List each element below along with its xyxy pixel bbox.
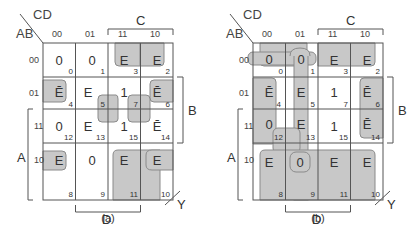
cell-value: 0 <box>253 118 285 131</box>
caption: (a) <box>93 212 123 224</box>
cell-value: E <box>43 154 75 167</box>
cell-index: 7 <box>124 101 138 109</box>
cell-index: 3 <box>124 68 138 76</box>
cell-value: 0 <box>284 156 316 169</box>
cell-index: 4 <box>59 101 73 109</box>
cell-value: 1 <box>108 120 140 133</box>
cell-index: 8 <box>269 191 283 199</box>
cell-value: Ē <box>351 118 383 131</box>
bracket-label-b: B <box>188 104 197 117</box>
row-var-label: AB <box>226 27 243 40</box>
cell-value: 0 <box>285 53 317 66</box>
cell-index: 15 <box>334 134 348 142</box>
cell-value: E <box>141 54 173 67</box>
cell-value: E <box>72 86 104 99</box>
cell-value: E <box>72 120 104 133</box>
cell-index: 13 <box>301 134 315 142</box>
output-label-y: Y <box>387 198 396 211</box>
col-header: 10 <box>150 30 160 39</box>
cell-value: Ē <box>253 86 285 99</box>
cell-value: E <box>141 154 173 167</box>
kmap-a: CD AB 00 01 11 10 00 01 11 10 C B A D Y … <box>0 0 209 231</box>
cell-index: 9 <box>301 191 315 199</box>
col-header: 00 <box>262 30 272 39</box>
cell-index: 14 <box>366 134 380 142</box>
cell-index: 12 <box>269 134 283 142</box>
cell-index: 9 <box>91 191 105 199</box>
cell-value: Ē <box>351 86 383 99</box>
kmap-b: CD AB 00 01 11 10 00 01 11 10 C B A D Y … <box>210 0 418 231</box>
row-header: 01 <box>29 89 39 98</box>
cell-index: 8 <box>59 191 73 199</box>
col-header: 01 <box>295 30 305 39</box>
bracket-label-a: A <box>227 151 236 164</box>
cell-value: Ē <box>141 86 173 99</box>
bracket-label-c: C <box>346 14 355 27</box>
cell-index: 0 <box>269 68 283 76</box>
bracket-label-a: A <box>17 151 26 164</box>
cell-index: 13 <box>91 134 105 142</box>
output-label-y: Y <box>177 198 186 211</box>
cell-index: 6 <box>156 101 170 109</box>
row-header: 00 <box>29 56 39 65</box>
cell-value: Ē <box>43 86 75 99</box>
cell-value: 0 <box>253 53 285 66</box>
cell-value: E <box>318 156 350 169</box>
col-var-label: CD <box>33 8 52 21</box>
cell-value: E <box>318 54 350 67</box>
col-header: 01 <box>85 30 95 39</box>
cell-index: 11 <box>124 191 138 199</box>
cell-value: 0 <box>76 154 108 167</box>
bracket-label-c: C <box>136 14 145 27</box>
caption: (b) <box>303 212 333 224</box>
bracket-label-b: B <box>398 104 407 117</box>
cell-index: 6 <box>366 101 380 109</box>
row-header: 00 <box>239 56 249 65</box>
cell-value: E <box>253 156 285 169</box>
cell-index: 1 <box>91 68 105 76</box>
cell-value: 1 <box>108 86 140 99</box>
cell-value: 0 <box>43 54 75 67</box>
col-header: 11 <box>328 30 337 39</box>
cell-value: Ē <box>141 120 173 133</box>
cell-value: E <box>108 154 140 167</box>
cell-index: 10 <box>156 191 170 199</box>
cell-value: 0 <box>43 120 75 133</box>
cell-value: 1 <box>318 86 350 99</box>
cell-value: 1 <box>318 120 350 133</box>
row-header: 01 <box>239 89 249 98</box>
cell-value: E <box>351 156 383 169</box>
cell-index: 0 <box>59 68 73 76</box>
cell-index: 2 <box>156 68 170 76</box>
cell-index: 5 <box>91 101 105 109</box>
col-header: 00 <box>52 30 62 39</box>
cell-value: E <box>108 54 140 67</box>
row-var-label: AB <box>16 27 33 40</box>
cell-index: 7 <box>334 101 348 109</box>
cell-index: 14 <box>156 134 170 142</box>
cell-value: 0 <box>76 54 108 67</box>
cell-index: 12 <box>59 134 73 142</box>
cell-value: E <box>285 118 317 131</box>
cell-index: 10 <box>366 191 380 199</box>
cell-index: 3 <box>334 68 348 76</box>
cell-value: E <box>285 86 317 99</box>
cell-index: 4 <box>267 101 281 109</box>
cell-index: 15 <box>124 134 138 142</box>
cell-index: 11 <box>334 191 348 199</box>
col-header: 10 <box>360 30 370 39</box>
cell-value: E <box>351 54 383 67</box>
cell-index: 1 <box>301 68 315 76</box>
col-var-label: CD <box>243 8 262 21</box>
cell-index: 2 <box>366 68 380 76</box>
row-header: 11 <box>34 122 43 131</box>
row-header: 11 <box>244 122 253 131</box>
cell-index: 5 <box>301 101 315 109</box>
col-header: 11 <box>118 30 127 39</box>
